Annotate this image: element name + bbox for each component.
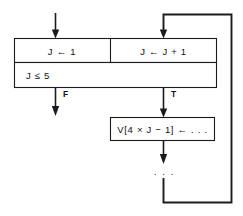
flowchart-diagram: J ← 1 J ← J + 1 J ≤ 5 F T V[4 × J − 1] ←… — [0, 0, 243, 216]
node-continuation: . . . — [154, 166, 175, 177]
node-init: J ← 1 — [48, 46, 76, 57]
increment-label: J ← J + 1 — [140, 46, 187, 57]
node-increment: J ← J + 1 — [140, 46, 187, 57]
true-exit-arrow: T — [160, 88, 177, 118]
init-label: J ← 1 — [48, 46, 76, 57]
entry-arrow — [52, 13, 59, 39]
body-to-continuation-arrow — [160, 141, 167, 165]
continuation-label: . . . — [154, 166, 175, 177]
body-label: V[4 × J − 1] ← . . . — [117, 124, 208, 135]
flowchart-svg: J ← 1 J ← J + 1 J ≤ 5 F T V[4 × J − 1] ←… — [0, 0, 243, 216]
node-condition: J ≤ 5 — [15, 63, 217, 88]
node-body: V[4 × J − 1] ← . . . — [111, 118, 215, 141]
false-branch-label: F — [63, 89, 68, 99]
condition-label: J ≤ 5 — [26, 70, 50, 81]
false-exit-arrow: F — [52, 88, 68, 117]
true-branch-label: T — [171, 89, 177, 99]
